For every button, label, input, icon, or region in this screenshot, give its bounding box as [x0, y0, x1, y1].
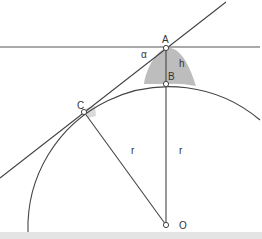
label-C: C [77, 100, 84, 111]
label-alpha: α [141, 49, 147, 60]
earth-arc [28, 87, 260, 232]
label-h: h [179, 58, 185, 69]
bottom-band [0, 232, 262, 239]
label-r-right: r [179, 145, 183, 156]
label-r-left: r [131, 145, 135, 156]
label-O: O [179, 220, 187, 231]
point-A [163, 45, 168, 50]
label-B: B [168, 71, 175, 82]
point-B [163, 81, 168, 86]
horizon-geometry-diagram: A B C O α h r r [0, 0, 262, 239]
point-O [163, 222, 168, 227]
segment-OC [84, 112, 166, 225]
label-A: A [162, 34, 169, 45]
